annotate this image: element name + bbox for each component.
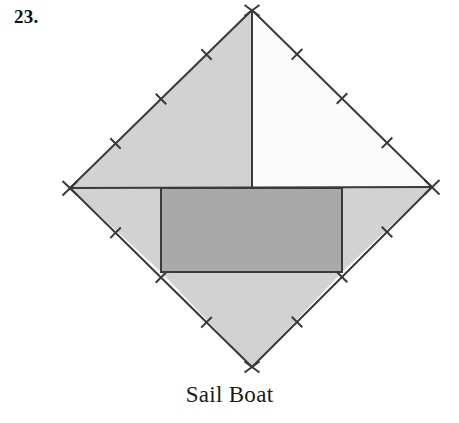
bottom-keel-triangle-piece	[161, 272, 342, 367]
figure-caption: Sail Boat	[0, 382, 459, 408]
hull-rectangle-piece	[161, 188, 342, 272]
sail-boat-tangram-figure	[0, 0, 459, 423]
figure-page: 23.	[0, 0, 459, 423]
